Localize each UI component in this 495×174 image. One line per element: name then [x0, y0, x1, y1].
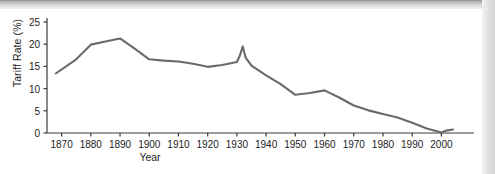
x-tick-label: 1910: [167, 139, 189, 150]
chart-series-group: [56, 38, 453, 132]
x-tick-label: 1980: [372, 139, 394, 150]
y-tick-label: 0: [18, 128, 40, 139]
scanned-figure-page: 0510152025 18701880189019001910192019301…: [0, 0, 495, 174]
x-tick-label: 1960: [313, 139, 335, 150]
x-tick-label: 1920: [197, 139, 219, 150]
x-tick-label: 1930: [226, 139, 248, 150]
x-tick-label: 1890: [109, 139, 131, 150]
x-tick-label: 2000: [430, 139, 452, 150]
tariff-rate-chart: 0510152025 18701880189019001910192019301…: [0, 9, 482, 174]
x-tick-label: 1900: [138, 139, 160, 150]
page-top-shadow-band: [0, 0, 495, 9]
x-tick-label: 1970: [343, 139, 365, 150]
x-tick-label: 1950: [284, 139, 306, 150]
y-tick-label: 5: [18, 105, 40, 116]
x-tick-label: 1940: [255, 139, 277, 150]
x-tick-label: 1990: [401, 139, 423, 150]
page-right-shadow-band: [482, 0, 495, 174]
series-line: [56, 38, 453, 132]
x-tick-label: 1880: [80, 139, 102, 150]
x-tick-label: 1870: [50, 139, 72, 150]
chart-axes: [44, 18, 475, 137]
x-axis-title: Year: [0, 151, 300, 163]
y-axis-title: Tariff Rate (%): [11, 5, 23, 101]
